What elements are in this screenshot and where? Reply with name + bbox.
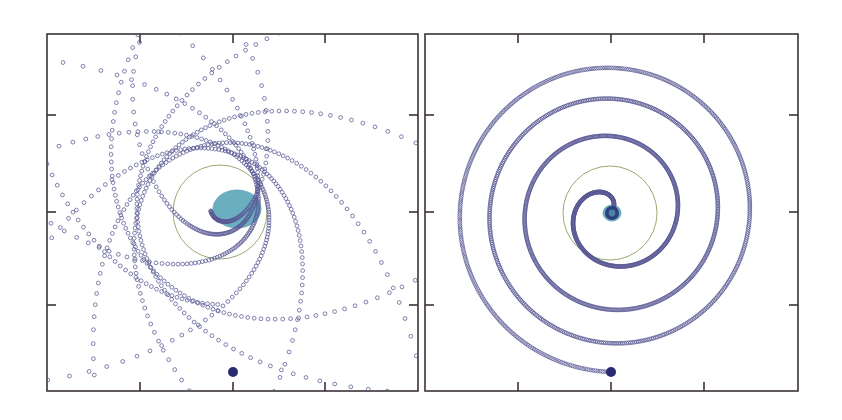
right-panel-canvas — [0, 0, 842, 420]
start-point-marker — [606, 367, 616, 377]
orbit-markers-right-panel — [458, 66, 752, 374]
right-panel — [0, 0, 842, 420]
orbital-trajectory-figure — [0, 0, 842, 420]
inner-core-highlight — [609, 210, 616, 217]
